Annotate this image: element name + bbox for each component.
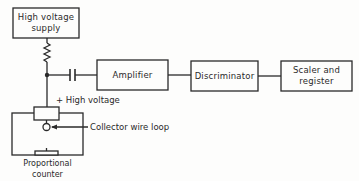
- hv-supply-line1: High voltage: [18, 12, 74, 23]
- capacitor-icon: [70, 69, 75, 81]
- discriminator-block: Discriminator: [191, 61, 258, 91]
- discriminator-label: Discriminator: [195, 71, 255, 82]
- hv-supply-line2: supply: [31, 23, 60, 34]
- amplifier-block: Amplifier: [97, 60, 168, 90]
- resistor-icon: [44, 43, 50, 62]
- proportional-counter-block-diagram: High voltage supply Amplifier Discrimina…: [0, 0, 359, 181]
- collector-label: Collector wire loop: [90, 122, 169, 132]
- high-voltage-label: + High voltage: [56, 95, 120, 105]
- counter-line2: counter: [10, 169, 85, 180]
- collector-loop-icon: [43, 124, 50, 131]
- amplifier-label: Amplifier: [112, 70, 152, 81]
- scaler-line1: Scaler and: [293, 65, 340, 76]
- scaler-block: Scaler and register: [281, 61, 352, 91]
- arrow-icon: [51, 125, 57, 130]
- junction-node-icon: [45, 73, 49, 77]
- scaler-line2: register: [299, 76, 333, 87]
- hv-supply-label: High voltage supply: [13, 8, 79, 38]
- counter-line1: Proportional: [10, 158, 85, 169]
- counter-label: Proportional counter: [10, 158, 85, 180]
